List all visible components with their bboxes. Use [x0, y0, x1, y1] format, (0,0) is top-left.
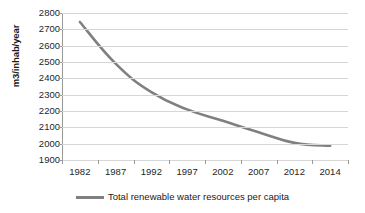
y-axis-tick-labels: 2800270026002500240023002200210020001900 — [22, 0, 60, 213]
y-axis-tick-mark — [58, 111, 62, 112]
y-axis-tick-label: 2500 — [26, 57, 60, 67]
y-axis-tick-label: 2800 — [26, 8, 60, 18]
y-axis-tick-label: 2000 — [26, 139, 60, 149]
y-axis-tick-mark — [58, 127, 62, 128]
y-axis-tick-label: 2200 — [26, 106, 60, 116]
x-axis-tick-mark — [241, 160, 242, 164]
y-axis-title: m3/inhab/year — [9, 0, 23, 116]
gridline — [62, 62, 348, 63]
series-line-total-renewable-water-resources-per-capita — [62, 13, 348, 160]
y-axis-tick-mark — [58, 13, 62, 14]
legend-item-label: Total renewable water resources per capi… — [108, 191, 289, 203]
chart-legend: Total renewable water resources per capi… — [0, 189, 365, 205]
y-axis-tick-mark — [58, 144, 62, 145]
y-axis-tick-mark — [58, 62, 62, 63]
gridline — [62, 78, 348, 79]
chart-container: m3/inhab/year 28002700260025002400230022… — [0, 0, 365, 213]
gridline — [62, 111, 348, 112]
y-axis-tick-label: 1900 — [26, 155, 60, 165]
x-axis-tick-mark — [98, 160, 99, 164]
x-axis-tick-mark — [312, 160, 313, 164]
legend-line-swatch — [76, 196, 104, 199]
y-axis-tick-label: 2600 — [26, 41, 60, 51]
gridline — [62, 95, 348, 96]
gridline — [62, 29, 348, 30]
gridline — [62, 127, 348, 128]
gridline — [62, 46, 348, 47]
x-axis-tick-mark — [169, 160, 170, 164]
x-axis-tick-mark — [348, 160, 349, 164]
x-axis-tick-mark — [205, 160, 206, 164]
y-axis-tick-mark — [58, 46, 62, 47]
gridline — [62, 13, 348, 14]
gridline — [62, 144, 348, 145]
y-axis-tick-label: 2400 — [26, 73, 60, 83]
x-axis-tick-label: 2014 — [300, 166, 360, 177]
plot-area — [62, 13, 348, 160]
y-axis-tick-label: 2700 — [26, 24, 60, 34]
y-axis-tick-mark — [58, 78, 62, 79]
x-axis-tick-mark — [62, 160, 63, 164]
x-axis-tick-mark — [277, 160, 278, 164]
y-axis-tick-mark — [58, 95, 62, 96]
x-axis-tick-mark — [134, 160, 135, 164]
y-axis-tick-label: 2300 — [26, 90, 60, 100]
y-axis-tick-label: 2100 — [26, 122, 60, 132]
y-axis-tick-mark — [58, 29, 62, 30]
